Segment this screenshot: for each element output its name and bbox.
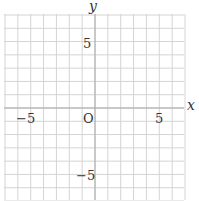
y-tick-label-neg5: −5 bbox=[76, 168, 95, 183]
y-tick-label-5: 5 bbox=[83, 36, 91, 51]
x-tick-label-5: 5 bbox=[155, 111, 163, 126]
y-axis-label: y bbox=[88, 0, 98, 14]
coordinate-grid-chart: x y O −5 5 5 −5 bbox=[0, 0, 199, 201]
x-axis-label: x bbox=[187, 97, 195, 113]
origin-label: O bbox=[83, 111, 94, 126]
x-tick-label-neg5: −5 bbox=[16, 111, 35, 126]
